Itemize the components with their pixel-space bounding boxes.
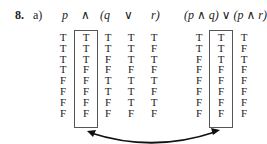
double-arrow-icon — [0, 0, 267, 144]
